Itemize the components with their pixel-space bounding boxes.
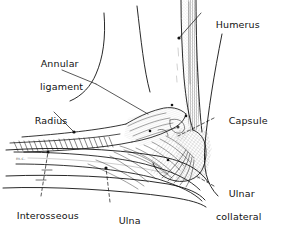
label-ulnar-collateral-ligament: Ulnar collateral ligament (216, 176, 269, 233)
label-humerus: Humerus (203, 8, 260, 41)
label-interosseous-line2: ligament (22, 233, 79, 234)
leader-annular-b (96, 84, 148, 114)
label-radius-text: Radius (35, 115, 68, 126)
label-ulna: Ulna (106, 204, 141, 233)
label-annular-line1: Annular (41, 58, 79, 69)
label-humerus-text: Humerus (216, 19, 260, 30)
label-ulna-text: Ulna (119, 215, 141, 226)
label-ulnar-line1: Ulnar (229, 188, 255, 199)
artist-signature: m.c. (16, 156, 25, 161)
label-radius: Radius (22, 104, 67, 137)
label-capsule: Capsule (216, 104, 268, 137)
label-interosseous-line1: Interosseous (17, 210, 79, 221)
anatomical-figure: Annular ligament Humerus Radius Capsule … (0, 0, 286, 233)
label-capsule-text: Capsule (229, 115, 268, 126)
label-interosseous-ligament: Interosseous ligament (4, 198, 79, 233)
label-annular-line2: ligament (40, 81, 83, 93)
label-ulnar-line2: collateral (216, 211, 269, 223)
